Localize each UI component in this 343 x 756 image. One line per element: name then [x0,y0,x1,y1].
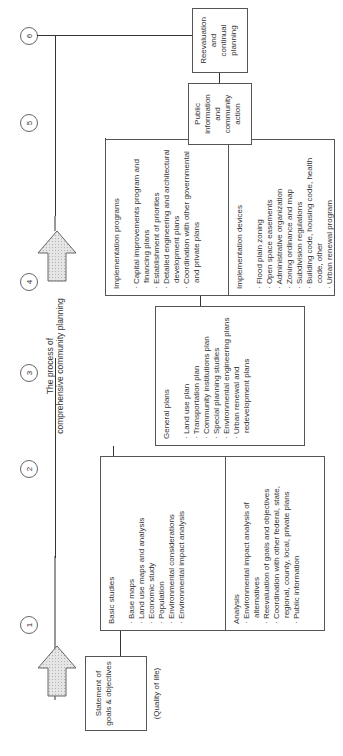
statement-line-2: goals & objectives [104,657,114,730]
text-line: information [203,84,213,144]
general-plans-box: General plans Land use plan Transportati… [155,306,305,446]
list-item: Detailed engineering and architectural d… [162,146,182,289]
list-item: Open space easements [265,146,275,289]
planning-process-diagram: 1 2 3 4 5 6 The process of comprehensive… [0,0,343,756]
general-plans-list: Land use plan Transportation plan Commun… [182,313,252,439]
basic-studies-box: Basic studies Base maps Land use maps an… [100,456,325,631]
public-information-box: Public information and community action [188,83,252,145]
general-plans-heading: General plans [162,313,172,439]
analysis-heading: Analysis [232,463,242,624]
implementation-devices-list: Flood plain zoning Open space easements … [255,146,335,289]
implementation-programs-list: Capital improvements program and financi… [132,146,202,289]
list-item: Public information [292,463,302,624]
implementation-programs-heading: Implementation programs [112,146,122,289]
list-item: Administrative organization [275,146,285,289]
connector-4-5 [105,138,106,139]
text-line: community [223,84,233,144]
feedback-line-from-reevaluation [55,35,192,36]
text-line: action [233,84,243,144]
connector-5-6 [219,73,220,83]
list-item: Transportation plan [192,313,202,439]
list-item: Establishment of priorities [152,146,162,289]
list-item: Zoning ordinance and map [285,146,295,289]
list-item: Flood plain zoning [255,146,265,289]
reevaluation-box: Reevaluation and continual planning [192,8,248,73]
list-item: Coordination with other governmental and… [182,146,202,289]
basic-studies-heading: Basic studies [107,463,117,624]
list-item: Building code, housing code, health code… [305,146,325,289]
implementation-devices-heading: Implementation devices [235,146,245,289]
text-line: planning [229,9,239,72]
list-item: Population [157,463,167,624]
connector-3-4 [200,296,201,306]
list-item: Base maps [127,463,137,624]
connector-1-2 [120,631,121,656]
text-line: and [209,9,219,72]
list-item: Community institutions plan [202,313,212,439]
list-item: Land use maps and analysis [137,463,147,624]
text-line: Public [193,84,203,144]
list-item: Coordination with other federal, state, … [272,463,292,624]
basic-studies-list: Base maps Land use maps and analysis Eco… [127,463,187,624]
list-item: Land use plan [182,313,192,439]
implementation-box: Implementation programs Capital improvem… [105,139,335,296]
connector-2-3 [113,446,114,456]
text-line: continual [219,9,229,72]
list-item: Reevaluation of goals and objectives [262,463,272,624]
quality-of-life-label: (Quality of life) [152,656,162,731]
list-item: Capital improvements program and financi… [132,146,152,289]
list-item: Urban renewal and redevelopment plans [232,313,252,439]
statement-of-goals-box: Statement of goals & objectives [85,656,147,731]
list-item: Subdivision regulations [295,146,305,289]
list-item: Environmental impact analysis [177,463,187,624]
list-item: Environmental impact analysis of alterna… [242,463,262,624]
list-item: Environmental engineering plans [222,313,232,439]
statement-line-1: Statement of [94,657,104,730]
list-item: Environmental considerations [167,463,177,624]
text-line: Reevaluation [199,9,209,72]
list-item: Economic study [147,463,157,624]
list-item: Urban renewal program [325,146,335,289]
text-line: and [213,84,223,144]
list-item: Special planning studies [212,313,222,439]
analysis-list: Environmental impact analysis of alterna… [242,463,302,624]
